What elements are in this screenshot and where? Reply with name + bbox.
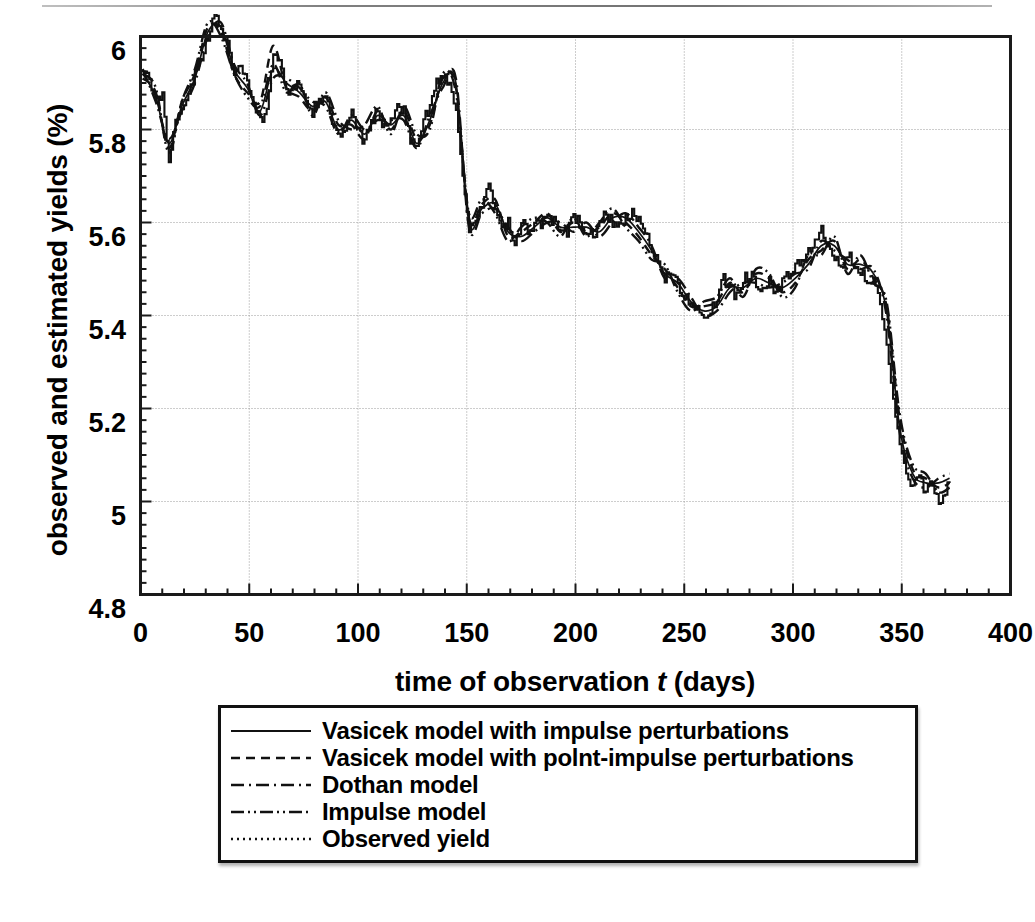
x-tick-label: 50: [234, 618, 264, 649]
legend-item-label: Vasicek model with polnt-impulse perturb…: [322, 744, 854, 772]
figure-container: observed and estimated yields (%) 65.85.…: [0, 0, 1035, 922]
legend-item[interactable]: Vasicek model with impulse perturbations: [229, 717, 915, 744]
scan-artifact-rule: [42, 5, 992, 7]
legend-item-label: Vasicek model with impulse perturbations: [322, 717, 789, 745]
x-tick-label: 300: [770, 618, 815, 649]
chart-svg: [0, 14, 1035, 654]
data-series-layer: [143, 14, 950, 504]
legend-line-sample-dotted: [229, 832, 313, 846]
legend-item[interactable]: Dothan model: [229, 771, 915, 798]
x-axis-title-suffix: (days): [666, 666, 755, 697]
x-tick-label: 250: [662, 618, 707, 649]
legend-item-label: Dothan model: [322, 771, 478, 799]
x-axis-title: time of observation t (days): [140, 666, 1010, 698]
series-observed-yield: [143, 14, 950, 504]
x-tick-label: 150: [444, 618, 489, 649]
x-tick-label: 100: [335, 618, 380, 649]
legend-line-sample-dash-dot: [229, 778, 313, 792]
chart-legend: Vasicek model with impulse perturbations…: [218, 705, 918, 863]
x-tick-label: 350: [879, 618, 924, 649]
x-axis-title-prefix: time of observation: [395, 666, 657, 697]
gridlines: [141, 37, 1011, 595]
legend-item[interactable]: Observed yield: [229, 825, 915, 852]
legend-item[interactable]: Vasicek model with polnt-impulse perturb…: [229, 744, 915, 771]
series-vasicek-model-with-polnt-impulse-perturbations: [143, 24, 950, 488]
legend-line-sample-dashed: [229, 751, 313, 765]
legend-line-sample-solid: [229, 724, 313, 738]
legend-item-label: Observed yield: [322, 825, 490, 853]
legend-item[interactable]: Impulse model: [229, 798, 915, 825]
x-tick-label: 400: [988, 618, 1033, 649]
legend-item-label: Impulse model: [322, 798, 486, 826]
x-axis-title-variable: t: [657, 666, 666, 697]
x-tick-label: 200: [553, 618, 598, 649]
chart-plot-region: observed and estimated yields (%) 65.85.…: [0, 14, 1035, 654]
legend-line-sample-dash-dot-dot: [229, 805, 313, 819]
x-tick-label: 0: [133, 618, 148, 649]
